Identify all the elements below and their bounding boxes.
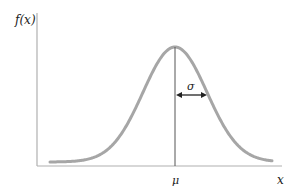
arrowhead-left-icon: [176, 92, 182, 98]
y-axis-label: f(x): [14, 13, 36, 27]
mean-tick-label: μ: [172, 174, 179, 187]
normal-distribution-chart: f(x) σ μ x: [0, 0, 297, 193]
x-axis-label: x: [277, 173, 284, 187]
sigma-label: σ: [187, 80, 195, 93]
bell-curve: [50, 47, 272, 162]
